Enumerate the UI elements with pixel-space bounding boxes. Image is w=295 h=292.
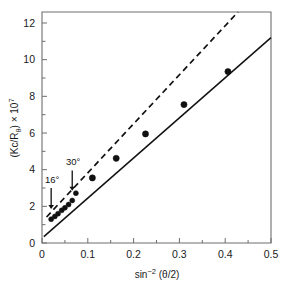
- x-axis-title: sin−2 (θ/2): [135, 267, 180, 280]
- x-axis-title-argument: (θ/2): [156, 269, 179, 280]
- y-axis-title: (Kc/Rθ) × 107: [7, 98, 23, 157]
- down-arrow-head: [48, 205, 54, 209]
- data-point: [113, 155, 119, 161]
- y-tick-label: 12: [23, 17, 35, 29]
- svg-text:sin−2 (θ/2): sin−2 (θ/2): [135, 267, 180, 280]
- data-point: [73, 191, 78, 196]
- data-point: [181, 101, 187, 107]
- y-axis-title-tail: ) × 10: [9, 102, 20, 128]
- x-axis-title-exponent: −2: [147, 267, 156, 276]
- x-tick-label: 0.4: [218, 248, 233, 260]
- angle-annotations: 16°30°: [45, 156, 81, 209]
- figure-container: 00.10.20.30.40.5 024681012 16°30° sin−2 …: [0, 0, 295, 292]
- y-tick-label: 4: [29, 163, 35, 175]
- series-layer: [44, 12, 271, 237]
- x-tick-label: 0.2: [126, 248, 141, 260]
- x-tick-label: 0.3: [172, 248, 187, 260]
- y-axis-ticks: [42, 23, 47, 243]
- x-axis-ticks: [42, 238, 271, 243]
- y-axis-title-base: (Kc/R: [9, 133, 20, 158]
- y-tick-label: 8: [29, 90, 35, 102]
- down-arrow-head: [69, 187, 75, 191]
- svg-text:(Kc/Rθ) × 107: (Kc/Rθ) × 107: [7, 98, 23, 157]
- y-tick-label: 6: [29, 127, 35, 139]
- angle-annotation-label: 16°: [45, 174, 60, 185]
- limiting-slope-line: [47, 12, 238, 217]
- x-tick-label: 0: [39, 248, 45, 260]
- zimm-plot-chart: 00.10.20.30.40.5 024681012 16°30° sin−2 …: [0, 0, 295, 292]
- x-axis-tick-labels: 00.10.20.30.40.5: [39, 248, 278, 260]
- data-point: [225, 68, 231, 74]
- y-axis-title-exponent: 7: [7, 98, 16, 102]
- overall-fit-line: [44, 38, 271, 237]
- data-point: [142, 131, 148, 137]
- y-axis-tick-labels: 024681012: [23, 17, 35, 249]
- x-axis-title-base: sin: [135, 269, 148, 280]
- angle-annotation-label: 30°: [66, 156, 81, 167]
- data-point: [66, 202, 71, 207]
- data-point: [89, 175, 95, 181]
- x-tick-label: 0.5: [264, 248, 279, 260]
- data-point: [70, 198, 75, 203]
- y-tick-label: 2: [29, 200, 35, 212]
- x-tick-label: 0.1: [80, 248, 95, 260]
- y-tick-label: 0: [29, 237, 35, 249]
- y-tick-label: 10: [23, 53, 35, 65]
- data-points: [49, 68, 231, 221]
